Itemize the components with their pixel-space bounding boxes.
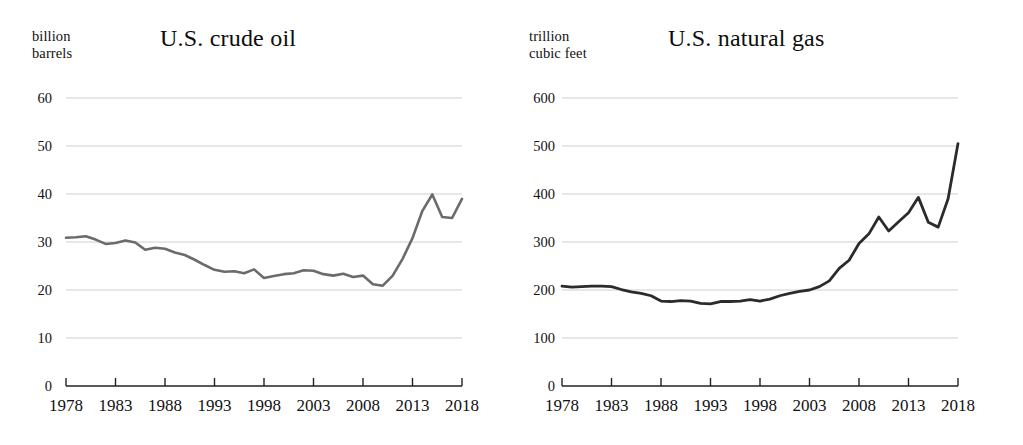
- y-tick-gas-200: 200: [513, 282, 555, 298]
- chart-panel-crude-oil: billion barrels U.S. crude oil: [0, 0, 511, 445]
- y-tick-oil-50: 50: [18, 138, 52, 154]
- y-tick-oil-60: 60: [18, 90, 52, 106]
- dual-chart-figure: billion barrels U.S. crude oil: [0, 0, 1023, 445]
- x-tick-gas-2018: 2018: [918, 396, 998, 416]
- plot-area-crude-oil: [0, 0, 511, 445]
- x-axis-oil: [66, 378, 462, 386]
- x-axis-gas: [562, 378, 958, 386]
- y-tick-oil-40: 40: [18, 186, 52, 202]
- y-tick-gas-100: 100: [513, 330, 555, 346]
- y-tick-gas-600: 600: [513, 90, 555, 106]
- y-tick-oil-20: 20: [18, 282, 52, 298]
- y-tick-gas-0: 0: [513, 378, 555, 394]
- y-tick-gas-300: 300: [513, 234, 555, 250]
- y-tick-gas-500: 500: [513, 138, 555, 154]
- data-line-natural-gas: [562, 144, 958, 304]
- y-tick-oil-30: 30: [18, 234, 52, 250]
- x-tick-oil-2018: 2018: [422, 396, 502, 416]
- plot-area-natural-gas: [511, 0, 1023, 445]
- data-line-crude-oil: [66, 194, 462, 285]
- y-tick-oil-0: 0: [18, 378, 52, 394]
- chart-panel-natural-gas: trillion cubic feet U.S. natural gas: [511, 0, 1023, 445]
- gridlines-oil: [66, 98, 462, 338]
- y-tick-gas-400: 400: [513, 186, 555, 202]
- y-tick-oil-10: 10: [18, 330, 52, 346]
